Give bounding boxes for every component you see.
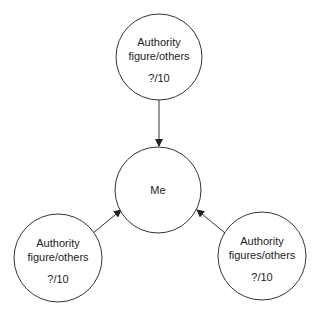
node-score: ?/10 — [148, 72, 169, 84]
edge-left-to-me — [92, 210, 121, 234]
node-right-authority: Authority figures/others ?/10 — [218, 212, 306, 300]
node-label-line2: figures/others — [229, 249, 296, 261]
node-left-authority: Authority figure/others ?/10 — [14, 214, 102, 302]
relationship-diagram: Authority figure/others ?/10 Me Authorit… — [0, 0, 314, 320]
node-label-line1: Authority — [137, 36, 181, 48]
node-label: Me — [150, 184, 165, 196]
node-score: ?/10 — [47, 273, 68, 285]
node-me: Me — [115, 147, 201, 233]
node-label-line1: Authority — [36, 237, 80, 249]
node-label-line2: figure/others — [27, 251, 89, 263]
node-top-authority: Authority figure/others ?/10 — [116, 14, 202, 100]
edge-right-to-me — [197, 210, 225, 233]
node-label-line1: Authority — [240, 235, 284, 247]
node-score: ?/10 — [251, 271, 272, 283]
node-label-line2: figure/others — [128, 50, 190, 62]
